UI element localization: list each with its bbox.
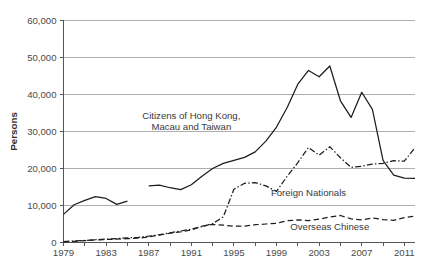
x-tick-label-1979: 1979 bbox=[53, 247, 74, 258]
y-tick-label-60000: 60,000 bbox=[27, 15, 56, 26]
y-tick-label-30000: 30,000 bbox=[27, 126, 56, 137]
figure-root: 010,00020,00030,00040,00050,00060,000 19… bbox=[0, 0, 425, 273]
y-axis-title-group: Persons bbox=[8, 112, 19, 151]
series-annotation-2-line0: Overseas Chinese bbox=[290, 221, 369, 232]
x-tick-label-1987: 1987 bbox=[138, 247, 159, 258]
x-tick-label-2007: 2007 bbox=[351, 247, 372, 258]
y-axis-title: Persons bbox=[8, 112, 19, 151]
data-series-group bbox=[64, 66, 416, 242]
y-tick-label-20000: 20,000 bbox=[27, 163, 56, 174]
y-tick-label-50000: 50,000 bbox=[27, 52, 56, 63]
x-tick-label-1983: 1983 bbox=[95, 247, 116, 258]
x-tick-label-2003: 2003 bbox=[308, 247, 329, 258]
series-annotations-group: Citizens of Hong Kong,Macau and TaiwanFo… bbox=[142, 110, 369, 232]
y-tick-labels-group: 010,00020,00030,00040,00050,00060,000 bbox=[27, 15, 56, 248]
line-chart: 010,00020,00030,00040,00050,00060,000 19… bbox=[0, 0, 425, 273]
x-tick-label-1991: 1991 bbox=[181, 247, 202, 258]
x-tick-labels-group: 197919831987199119951999200320072011 bbox=[53, 247, 415, 258]
x-tick-label-1995: 1995 bbox=[223, 247, 244, 258]
series-annotation-0-line0: Citizens of Hong Kong, bbox=[142, 110, 240, 121]
tickmarks-group bbox=[60, 21, 405, 247]
y-tick-label-10000: 10,000 bbox=[27, 200, 56, 211]
series-annotation-1-line0: Foreign Nationals bbox=[271, 187, 346, 198]
y-tick-label-40000: 40,000 bbox=[27, 89, 56, 100]
x-tick-label-1999: 1999 bbox=[266, 247, 287, 258]
x-tick-label-2011: 2011 bbox=[394, 247, 415, 258]
series-annotation-0-line1: Macau and Taiwan bbox=[151, 121, 231, 132]
